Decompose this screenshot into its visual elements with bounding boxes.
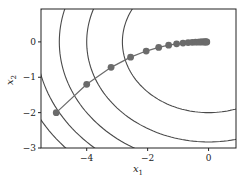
trajectory-series: [53, 38, 210, 116]
trajectory-point: [108, 64, 115, 71]
x-tick-label: −4: [80, 153, 94, 163]
y-tick-label: −1: [23, 72, 36, 82]
plot-frame: [41, 9, 236, 148]
trajectory-point: [203, 38, 210, 45]
trajectory-point: [143, 48, 150, 55]
contour-level-8: [122, 0, 245, 113]
y-tick-label: −3: [23, 143, 37, 153]
x-axis-label: x1: [133, 163, 143, 177]
trajectory-point: [127, 54, 134, 61]
trajectory-point: [155, 44, 162, 51]
x-tick-label: 0: [206, 153, 212, 163]
trajectory-point: [165, 42, 172, 49]
gradient-descent-contour-chart: −4−20 −3−2−10 x1 x2: [0, 0, 245, 181]
y-axis-label: x2: [4, 75, 18, 85]
x-axis-ticks: −4−20: [80, 148, 212, 163]
y-tick-label: −2: [23, 108, 36, 118]
y-axis-ticks: −3−2−10: [23, 37, 41, 153]
contour-level-16: [87, 0, 245, 142]
trajectory-point: [83, 81, 90, 88]
y-tick-label: 0: [30, 37, 36, 47]
x-tick-label: −2: [141, 153, 154, 163]
trajectory-point: [53, 109, 60, 116]
trajectory-point: [173, 40, 180, 47]
